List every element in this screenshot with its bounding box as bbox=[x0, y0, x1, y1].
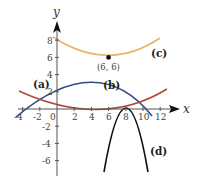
x-tick-label: 2 bbox=[72, 112, 78, 122]
x-tick-label: -2 bbox=[33, 112, 42, 122]
vertex-point-label: (6, 6) bbox=[97, 62, 120, 72]
x-tick-label: -4 bbox=[14, 112, 23, 122]
curve-label-a: (a) bbox=[33, 78, 50, 90]
x-tick-label: 4 bbox=[89, 112, 95, 122]
y-tick-label: -4 bbox=[42, 139, 51, 149]
curve-label-d: (d) bbox=[150, 145, 167, 157]
vertex-point bbox=[106, 55, 111, 60]
x-tick-label: 12 bbox=[155, 112, 166, 122]
x-tick-label: 10 bbox=[138, 112, 150, 122]
y-axis-label: y bbox=[52, 5, 60, 19]
curve-a bbox=[19, 89, 167, 110]
x-axis-label: x bbox=[183, 102, 190, 116]
y-tick-label: 8 bbox=[47, 36, 53, 46]
curve-label-c: (c) bbox=[151, 47, 167, 59]
function-graph: -4 -2 0 2 4 6 8 10 12 8 6 4 2 -2 -4 -6 x… bbox=[0, 0, 199, 183]
y-tick-label: -2 bbox=[42, 122, 51, 132]
curve-label-b: (b) bbox=[103, 79, 120, 91]
y-tick-label: 6 bbox=[47, 53, 53, 63]
x-tick-label: 0 bbox=[50, 112, 56, 122]
curve-c bbox=[53, 37, 160, 55]
x-tick-label: 8 bbox=[123, 112, 129, 122]
x-tick-label: 6 bbox=[106, 112, 112, 122]
y-tick-label: -6 bbox=[42, 156, 51, 166]
curves bbox=[16, 37, 167, 172]
